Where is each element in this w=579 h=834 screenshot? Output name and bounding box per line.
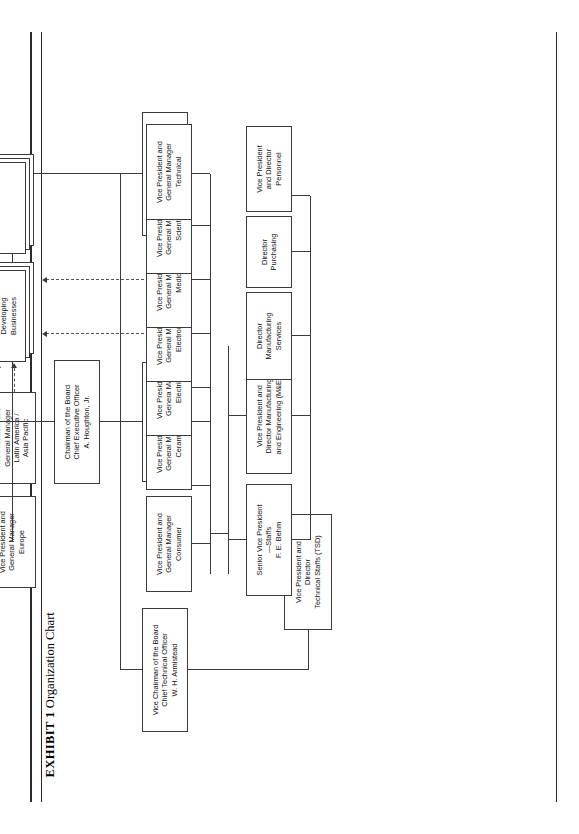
connector-svp-staffs-drop xyxy=(228,539,246,540)
connector-staff-bus-drop xyxy=(210,533,228,534)
node-gm-technical-label: Vice President and General Manager Techn… xyxy=(154,141,182,203)
node-vp-manufacturing-engineering-label: Vice President and Director Manufacturin… xyxy=(254,378,282,455)
dashed-link-medical-to-bdb xyxy=(46,279,144,280)
dashed-arrow-electronics xyxy=(42,331,47,337)
node-gm-technical[interactable]: Vice President and General Manager Techn… xyxy=(146,124,192,220)
node-vp-personnel[interactable]: Vice President and Director Personnel xyxy=(246,126,292,212)
node-vp-technical-staffs-label: Vice President and Director Technical St… xyxy=(293,535,321,608)
connector-gm-scientific-stem xyxy=(192,225,210,226)
connector-chairman-stem xyxy=(100,421,120,422)
org-chart: Chairman of the Board Chief Executive Of… xyxy=(40,32,540,802)
node-gm-latin-america-asia-pacific[interactable]: Vice President and General Manager Latin… xyxy=(0,392,36,484)
connector-dir-mfg-services-stem xyxy=(292,335,310,336)
connector-vp-mfg-drop xyxy=(228,415,246,416)
connector-substaff-stem xyxy=(292,539,310,540)
connector-dir-mfg-services-drop xyxy=(292,415,310,416)
connector-gm-electronics-stem xyxy=(192,333,210,334)
connector-vp-personnel-stem xyxy=(292,195,310,196)
connector-corp-to-chairman xyxy=(0,421,54,422)
dashed-link-electronics-to-bdb xyxy=(46,333,144,334)
connector-tsd-in xyxy=(308,630,309,670)
node-businesses-developing-businesses[interactable]: Businesses Developing Businesses xyxy=(0,270,26,362)
connector-top-bus xyxy=(120,174,121,670)
connector-gm-technical-stem xyxy=(192,173,210,174)
node-svp-staffs[interactable]: Senior Vice President —Staffs F. E. Behm xyxy=(246,484,292,596)
connector-dir-purchasing-stem xyxy=(292,251,310,252)
connector-substaff-bus xyxy=(310,196,311,540)
node-director-purchasing[interactable]: Director Purchasing xyxy=(246,216,292,288)
dashed-link-latam-to-bdb xyxy=(14,368,15,392)
connector-gm-medical-stem xyxy=(192,279,210,280)
node-director-purchasing-label: Director Purchasing xyxy=(259,234,278,271)
node-bdb-label: Businesses Developing Businesses xyxy=(0,297,18,335)
connector-division-bus xyxy=(210,174,211,574)
node-gm-consumer[interactable]: Vice President and General Manager Consu… xyxy=(146,496,192,592)
dashed-arrow-medical xyxy=(42,277,47,283)
connector-vc-tech-to-tsd xyxy=(188,669,308,670)
node-vice-chairman-technical[interactable]: Vice Chairman of the Board Chief Technic… xyxy=(142,608,188,732)
connector-vc-tech-drop xyxy=(120,669,142,670)
connector-gm-electrical-stem xyxy=(192,387,210,388)
node-gm-latin-america-asia-pacific-label: Vice President and General Manager Latin… xyxy=(0,407,30,469)
connector-gm-ceramics-drop xyxy=(192,485,210,486)
connector-gm-consumer-stem xyxy=(192,543,210,544)
node-chairman[interactable]: Chairman of the Board Chief Executive Of… xyxy=(54,360,100,484)
dashed-arrow-europe xyxy=(0,363,1,368)
dashed-arrow-latam xyxy=(11,363,17,368)
node-chairman-label: Chairman of the Board Chief Executive Of… xyxy=(62,384,90,459)
node-vp-personnel-label: Vice President and Director Personnel xyxy=(254,145,282,193)
node-gm-consumer-label: Vice President and General Manager Consu… xyxy=(154,513,182,575)
connector-president-drop xyxy=(120,421,142,422)
page-rule-right xyxy=(556,32,557,802)
node-bdb-secondary[interactable] xyxy=(0,162,26,254)
node-director-manufacturing-services-label: Director Manufacturing Services xyxy=(254,313,282,360)
node-svp-staffs-label: Senior Vice President —Staffs F. E. Behm xyxy=(254,505,282,576)
node-vice-chairman-technical-label: Vice Chairman of the Board Chief Technic… xyxy=(150,625,178,716)
node-director-manufacturing-services[interactable]: Director Manufacturing Services xyxy=(246,292,292,380)
node-gm-europe[interactable]: Vice President and General Manager Europ… xyxy=(0,496,36,588)
